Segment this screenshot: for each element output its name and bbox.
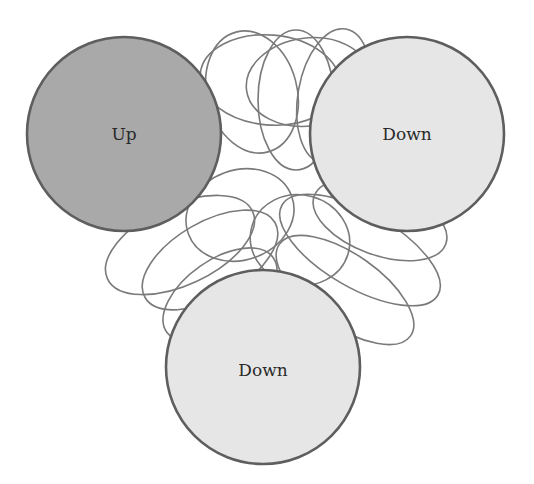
down-state-label-right: Down: [382, 124, 431, 144]
state-diagram: [0, 0, 534, 484]
up-state-label: Up: [111, 124, 136, 144]
down-state-label-bottom: Down: [238, 360, 287, 380]
